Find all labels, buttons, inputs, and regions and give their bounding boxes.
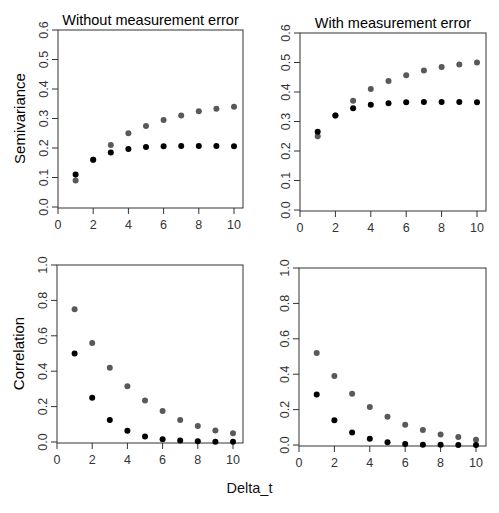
panel-title: Without measurement error <box>62 12 239 28</box>
x-axis: 0246810 <box>296 446 483 470</box>
y-tick-label: 0.2 <box>278 401 292 418</box>
data-point <box>420 442 426 448</box>
series-gray <box>73 104 237 184</box>
data-point <box>89 395 95 401</box>
series-gray <box>72 306 236 436</box>
data-point <box>107 417 113 423</box>
data-point <box>195 438 201 444</box>
x-tick-label: 6 <box>160 218 167 232</box>
x-tick-label: 10 <box>470 221 484 235</box>
data-point <box>420 427 426 433</box>
data-point <box>438 442 444 448</box>
x-tick-label: 8 <box>195 218 202 232</box>
x-tick-label: 0 <box>54 453 61 467</box>
data-point <box>213 143 219 149</box>
data-point <box>349 430 355 436</box>
series-black <box>315 99 480 135</box>
series-black <box>72 351 236 445</box>
y-tick-label: 1.0 <box>36 256 50 273</box>
data-point <box>89 340 95 346</box>
x-tick-label: 2 <box>89 453 96 467</box>
data-point <box>160 408 166 414</box>
data-point <box>212 439 218 445</box>
data-point <box>349 391 355 397</box>
y-tick-label: 1.0 <box>278 259 292 276</box>
y-tick-label: 0.8 <box>278 295 292 312</box>
data-point <box>230 439 236 445</box>
x-tick-label: 6 <box>403 221 410 235</box>
data-point <box>161 117 167 123</box>
x-tick-label: 6 <box>402 456 409 470</box>
data-point <box>108 142 114 148</box>
y-tick-label: 0.4 <box>36 362 50 379</box>
plot-frame <box>57 265 243 443</box>
x-tick-label: 2 <box>331 456 338 470</box>
plot-frame <box>299 268 486 446</box>
data-point <box>402 422 408 428</box>
data-point <box>403 72 409 78</box>
x-tick-label: 10 <box>469 456 483 470</box>
x-tick-label: 2 <box>332 221 339 235</box>
y-axis: 0.00.10.20.30.40.50.6 <box>279 24 300 218</box>
y-tick-label: 0.0 <box>37 198 51 215</box>
x-tick-label: 0 <box>55 218 62 232</box>
x-axis: 0246810 <box>55 208 241 232</box>
data-point <box>196 143 202 149</box>
data-point <box>212 427 218 433</box>
data-point <box>456 62 462 68</box>
data-point <box>403 99 409 105</box>
data-point <box>367 436 373 442</box>
y-tick-label: 0.0 <box>36 433 50 450</box>
series-black <box>73 143 237 178</box>
y-tick-label: 0.0 <box>278 436 292 453</box>
data-point <box>72 306 78 312</box>
data-point <box>439 64 445 70</box>
x-tick-label: 8 <box>437 456 444 470</box>
data-point <box>314 392 320 398</box>
data-point <box>455 434 461 440</box>
y-tick-label: 0.6 <box>37 21 51 38</box>
y-axis: 0.00.20.40.60.81.0 <box>36 256 57 450</box>
data-point <box>350 98 356 104</box>
x-tick-label: 4 <box>367 221 374 235</box>
series-black <box>314 392 479 448</box>
data-point <box>160 436 166 442</box>
y-axis: 0.00.20.40.60.81.0 <box>278 259 299 453</box>
y-axis-label: Semivariance <box>11 73 28 164</box>
data-point <box>331 417 337 423</box>
series-gray <box>314 350 479 443</box>
x-tick-label: 4 <box>124 453 131 467</box>
plot-frame <box>300 33 486 211</box>
y-tick-label: 0.5 <box>279 54 293 71</box>
data-point <box>230 430 236 436</box>
data-point <box>421 67 427 73</box>
data-point <box>473 437 479 443</box>
x-axis: 0246810 <box>54 443 240 467</box>
data-point <box>72 351 78 357</box>
data-point <box>73 177 79 183</box>
data-point <box>402 441 408 447</box>
data-point <box>125 130 131 136</box>
data-point <box>385 439 391 445</box>
chart-panel-3: 02468100.00.20.40.60.81.0Correlation <box>10 256 243 467</box>
data-point <box>178 143 184 149</box>
data-point <box>331 373 337 379</box>
x-tick-label: 2 <box>90 218 97 232</box>
y-tick-label: 0.6 <box>279 24 293 41</box>
y-tick-label: 0.8 <box>36 292 50 309</box>
y-axis: 0.00.10.20.30.40.50.6 <box>37 21 58 215</box>
data-point <box>213 106 219 112</box>
y-tick-label: 0.2 <box>279 142 293 159</box>
data-point <box>367 404 373 410</box>
data-point <box>177 417 183 423</box>
data-point <box>368 86 374 92</box>
data-point <box>177 438 183 444</box>
y-tick-label: 0.6 <box>36 327 50 344</box>
chart-panel-2: 02468100.00.10.20.30.40.50.6With measure… <box>279 15 486 235</box>
data-point <box>231 143 237 149</box>
x-tick-label: 10 <box>227 218 241 232</box>
chart-panel-1: 02468100.00.10.20.30.40.50.6Without meas… <box>11 12 243 232</box>
shared-x-axis-label: Delta_t <box>0 480 499 496</box>
y-tick-label: 0.3 <box>37 110 51 127</box>
data-point <box>386 100 392 106</box>
